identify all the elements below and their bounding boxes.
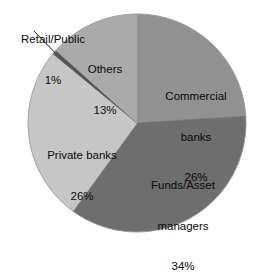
slice-label-retail-public: Retail/Public 1% xyxy=(2,6,104,114)
slice-label-funds-asset-managers: Funds/Asset managers 34% xyxy=(140,152,226,274)
slice-label-private-banks-line1: Private banks xyxy=(36,149,128,163)
slice-label-funds-asset-managers-line1: Funds/Asset xyxy=(140,179,226,193)
slice-label-retail-public-line1: Retail/Public xyxy=(2,33,104,47)
slice-label-private-banks-value: 26% xyxy=(36,190,128,204)
slice-label-funds-asset-managers-line2: managers xyxy=(140,220,226,234)
slice-label-retail-public-value: 1% xyxy=(2,74,104,88)
slice-label-funds-asset-managers-value: 34% xyxy=(140,260,226,274)
slice-label-commercial-banks-line2: banks xyxy=(156,131,236,145)
slice-label-commercial-banks-line1: Commercial xyxy=(156,90,236,104)
